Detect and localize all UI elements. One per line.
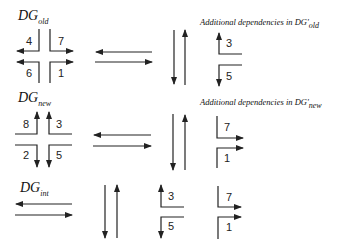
row-dg-old: DGold 4 7 6 1 Additional dependencies in… [17,8,320,86]
dg-new-vertical-pair [173,114,185,170]
dg-new-cross: 8 3 2 5 [15,112,72,167]
label-b-upper: 7 [226,191,232,203]
row-dg-int: DGint 3 5 7 1 [15,180,241,239]
label-bottom-left: 2 [23,149,29,161]
dg-int-horizontal-pair [15,204,72,215]
label-a-upper: 3 [168,190,174,202]
additional-deps-old: 3 5 [219,33,242,86]
label-lower: 1 [224,152,230,164]
dg-old-title: DGold [17,8,49,26]
label-bottom-right: 1 [58,67,64,79]
row-dg-new: DGnew 8 3 2 5 Additional dependencies in… [15,90,322,170]
label-top-right: 7 [58,35,64,47]
dg-old-horizontal-pair [95,52,152,62]
additional-deps-new-title: Additional dependencies in DG'new [199,97,322,110]
label-upper: 3 [226,37,232,49]
additional-deps-new: 7 1 [217,116,243,168]
label-top-left: 4 [26,35,32,47]
dg-old-vertical-pair [174,30,185,85]
dg-new-title: DGnew [17,90,52,108]
dg-new-horizontal-pair [93,135,151,146]
label-upper: 7 [224,121,230,133]
dependency-graph-diagram: DGold 4 7 6 1 Additional dependencies in… [0,0,340,247]
dg-int-vertical-pair [105,185,117,238]
additional-deps-old-title: Additional dependencies in DG'old [199,17,320,30]
label-bottom-left: 6 [26,67,32,79]
dg-int-corners-b: 7 1 [218,186,241,239]
label-top-left: 8 [23,118,29,130]
dg-int-corners-a: 3 5 [161,185,184,238]
label-lower: 5 [226,70,232,82]
label-a-lower: 5 [168,220,174,232]
label-bottom-right: 5 [56,149,62,161]
label-top-right: 3 [56,118,62,130]
label-b-lower: 1 [226,221,232,233]
dg-old-cross: 4 7 6 1 [17,29,73,83]
dg-int-title: DGint [19,180,49,198]
